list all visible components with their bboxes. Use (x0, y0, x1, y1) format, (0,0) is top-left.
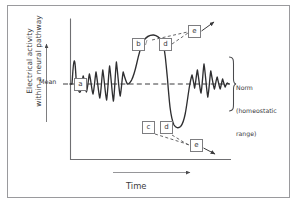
mean-label: Mean (39, 79, 56, 86)
norm-range-label: Norm (homeostatic range) (236, 68, 277, 153)
norm-label-line3: range) (236, 130, 277, 138)
upper-e-arrow-icon (202, 22, 215, 31)
x-axis-label: Time (126, 182, 147, 191)
node-c: c (142, 121, 155, 134)
signal-trace (70, 35, 229, 128)
norm-label-line1: Norm (236, 84, 277, 92)
node-a: a (74, 78, 87, 91)
node-e-upper: e (188, 25, 201, 38)
lower-d-to-e-leader (172, 135, 190, 146)
y-axis-label-line2: within a neural pathway (34, 1, 43, 121)
node-e-lower: e (190, 139, 203, 152)
node-d-lower: d (160, 121, 173, 134)
node-b-connector (146, 40, 148, 45)
y-axis-label-line1: Electrical activity (25, 28, 34, 93)
y-axis-label: Electrical activity within a neural path… (25, 1, 43, 121)
figure-root: Electrical activity within a neural path… (0, 0, 299, 206)
node-b: b (132, 38, 145, 51)
norm-label-line2: (homeostatic (236, 107, 277, 115)
node-d-upper: d (159, 38, 172, 51)
lower-e-arrow-icon (204, 148, 216, 154)
